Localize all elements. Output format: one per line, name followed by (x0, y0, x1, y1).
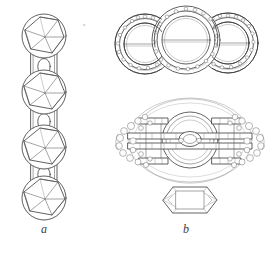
chain-bead (22, 14, 66, 58)
illustration-plate: a b (0, 0, 275, 254)
plate-drawing (0, 0, 275, 254)
chain-bead (22, 125, 66, 169)
ring-centre (152, 6, 220, 74)
hexagonal-plaque (163, 187, 217, 213)
figure-caption-a: a (24, 222, 64, 237)
chain-bead (22, 176, 66, 220)
figure-b-triple-rings (115, 6, 258, 74)
chain-bead (22, 70, 66, 114)
figure-caption-b: b (166, 222, 206, 237)
brooch-central-boss (179, 132, 202, 147)
